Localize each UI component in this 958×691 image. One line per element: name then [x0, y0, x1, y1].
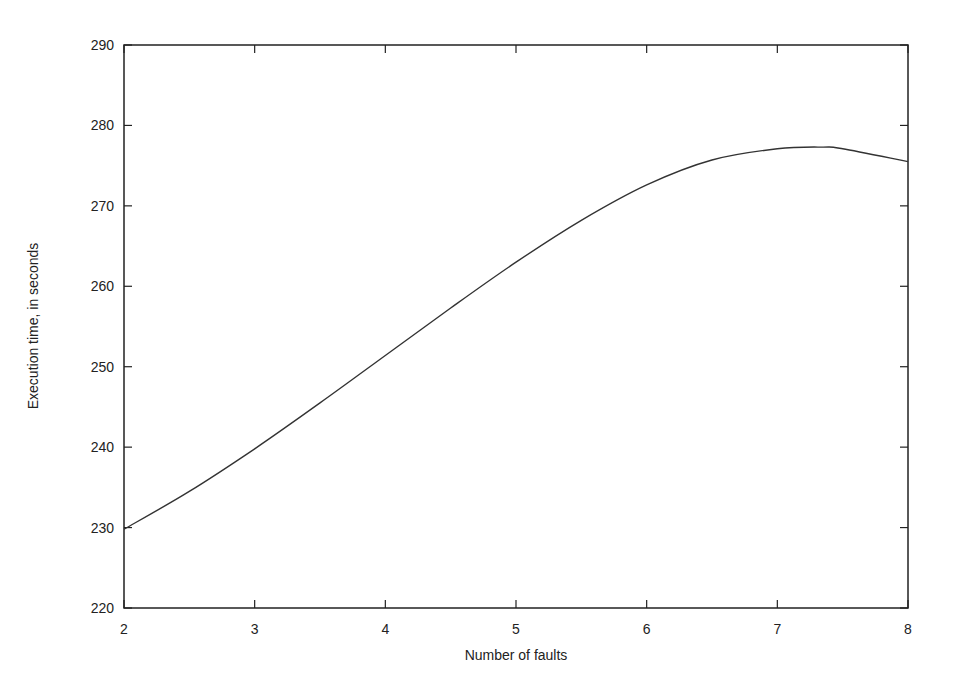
y-axis-title: Execution time, in seconds — [25, 243, 41, 410]
y-tick-label: 240 — [91, 439, 115, 455]
x-tick-label: 8 — [904, 621, 912, 637]
y-axis-ticks: 220230240250260270280290 — [91, 37, 908, 616]
data-line — [124, 147, 908, 529]
x-tick-label: 4 — [381, 621, 389, 637]
line-chart: 220230240250260270280290 2345678 Number … — [0, 0, 958, 691]
x-tick-label: 2 — [120, 621, 128, 637]
x-tick-label: 6 — [643, 621, 651, 637]
y-tick-label: 270 — [91, 198, 115, 214]
y-tick-label: 260 — [91, 278, 115, 294]
x-tick-label: 7 — [773, 621, 781, 637]
x-tick-label: 3 — [251, 621, 259, 637]
x-axis-title: Number of faults — [465, 647, 568, 663]
y-tick-label: 290 — [91, 37, 115, 53]
y-tick-label: 230 — [91, 520, 115, 536]
y-tick-label: 250 — [91, 359, 115, 375]
y-tick-label: 220 — [91, 600, 115, 616]
y-tick-label: 280 — [91, 117, 115, 133]
x-axis-ticks: 2345678 — [120, 45, 912, 637]
x-tick-label: 5 — [512, 621, 520, 637]
plot-frame — [124, 45, 908, 608]
